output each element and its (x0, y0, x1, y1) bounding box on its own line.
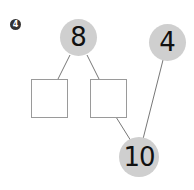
top-right-number-circle: 4 (149, 24, 186, 61)
problem-number-badge: 4 (10, 19, 21, 30)
number-bond-diagram: 4 8 4 10 (0, 0, 194, 190)
answer-box-left[interactable] (31, 79, 68, 118)
top-left-number-circle: 8 (60, 19, 97, 56)
answer-box-right[interactable] (90, 79, 127, 118)
bottom-number-circle: 10 (119, 137, 159, 177)
